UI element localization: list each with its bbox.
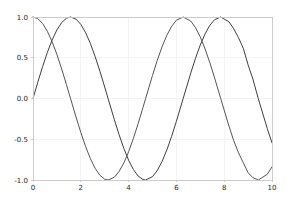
x-tick-label: 2 — [79, 184, 83, 192]
x-tick-label: 4 — [126, 184, 131, 192]
x-tick-label: 6 — [174, 184, 179, 192]
plot-canvas: 0246810 -1.0-0.50.00.51.0 — [0, 0, 288, 200]
y-tick-label: 0.0 — [17, 95, 28, 103]
y-tick-label: 0.5 — [17, 54, 28, 62]
y-tick-label: -1.0 — [14, 177, 28, 185]
chart-figure: 0246810 -1.0-0.50.00.51.0 — [0, 0, 288, 200]
x-tick-label: 10 — [268, 184, 277, 192]
x-tick-label: 8 — [222, 184, 226, 192]
y-tick-label: 1.0 — [17, 14, 28, 22]
x-tick-label: 0 — [31, 184, 35, 192]
y-tick-label: -0.5 — [14, 136, 28, 144]
